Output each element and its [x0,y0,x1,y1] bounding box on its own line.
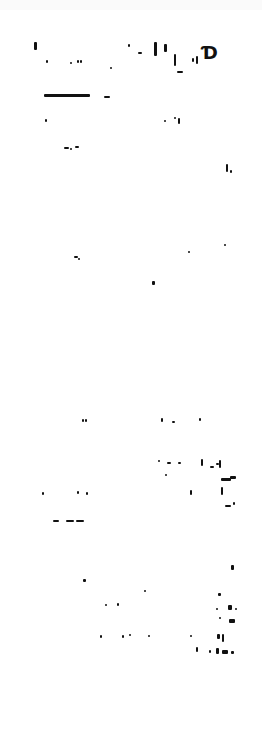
text-fragment [209,650,211,653]
text-fragment [231,565,234,570]
text-fragment [100,635,102,638]
text-fragment [228,605,232,610]
text-fragment [144,590,146,592]
text-fragment [217,634,220,639]
text-fragment [122,635,124,638]
text-fragment [235,608,237,610]
text-fragment [117,603,119,606]
text-fragment [83,579,86,582]
text-fragment [196,647,198,652]
text-fragment [222,634,224,642]
text-fragment [105,604,107,606]
text-fragment [216,608,218,610]
text-fragment [218,593,221,596]
bottom-section [0,0,262,754]
text-fragment [148,635,150,637]
text-fragment [216,648,219,654]
text-fragment [222,650,228,654]
text-fragment [129,634,131,636]
text-fragment [229,619,235,623]
text-fragment [219,617,221,619]
text-fragment [231,651,234,654]
text-fragment [190,635,192,637]
